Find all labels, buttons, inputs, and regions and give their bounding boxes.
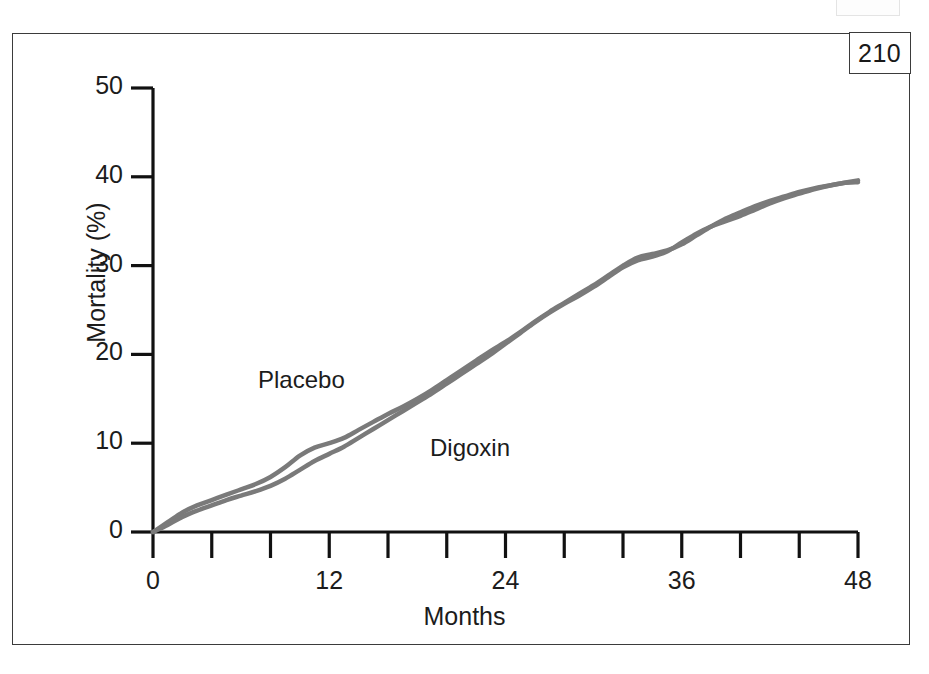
x-tick-label: 36	[652, 566, 712, 595]
x-axis-title: Months	[0, 602, 929, 631]
series-label-digoxin: Digoxin	[430, 434, 510, 462]
page-number-box: 210	[849, 32, 911, 74]
x-tick-label: 24	[476, 566, 536, 595]
x-tick-label: 0	[123, 566, 183, 595]
page-top-artifact	[836, 0, 900, 16]
series-label-placebo: Placebo	[258, 366, 345, 394]
y-tick-label: 30	[63, 249, 123, 278]
y-tick-label: 10	[63, 426, 123, 455]
page-canvas: 210 Mortality (%) Months 01020304050 012…	[0, 0, 929, 674]
y-tick-label: 40	[63, 160, 123, 189]
y-tick-label: 50	[63, 71, 123, 100]
y-tick-label: 0	[63, 515, 123, 544]
page-number-text: 210	[858, 39, 901, 68]
x-tick-label: 12	[299, 566, 359, 595]
y-tick-label: 20	[63, 337, 123, 366]
figure-frame: 210	[12, 33, 910, 645]
x-tick-label: 48	[828, 566, 888, 595]
